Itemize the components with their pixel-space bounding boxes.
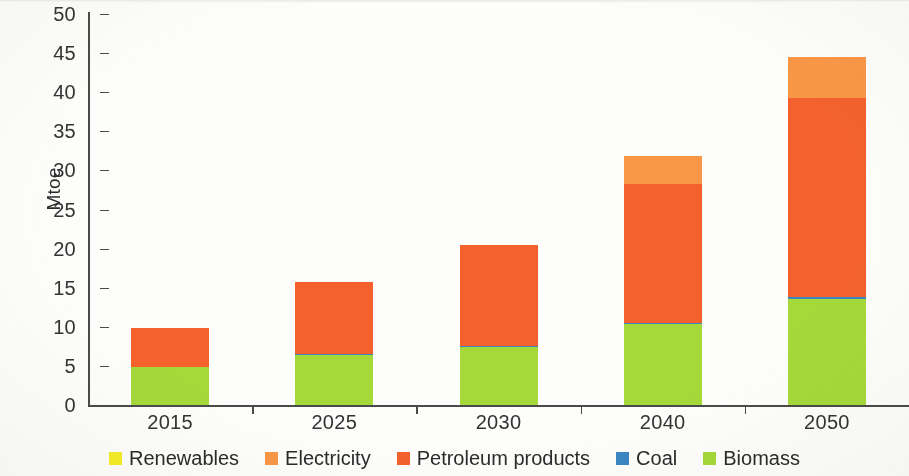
y-tick-label: 50	[24, 3, 76, 26]
y-tick-mark	[100, 14, 109, 15]
y-tick-mark	[100, 53, 109, 54]
x-tick-label: 2025	[311, 411, 357, 434]
bar-segment-coal	[624, 323, 702, 325]
legend-label: Electricity	[285, 447, 371, 470]
bar-2050	[788, 57, 866, 405]
legend-label: Petroleum products	[417, 447, 590, 470]
x-tick-mark	[745, 405, 747, 414]
bar-2030	[460, 245, 538, 405]
y-tick-label: 20	[24, 237, 76, 260]
bar-segment-biomass	[295, 355, 373, 405]
legend-item-electricity[interactable]: Electricity	[265, 447, 371, 470]
legend-swatch-icon	[397, 452, 410, 465]
y-tick-mark	[100, 249, 109, 250]
y-tick-mark	[100, 327, 109, 328]
x-tick-mark	[416, 405, 418, 414]
x-axis-line	[88, 405, 909, 407]
bar-segment-biomass	[788, 299, 866, 405]
bar-segment-electricity	[624, 156, 702, 183]
x-tick-label: 2030	[476, 411, 522, 434]
x-tick-label: 2050	[804, 411, 850, 434]
legend-item-biomass[interactable]: Biomass	[703, 447, 800, 470]
y-tick-mark	[100, 366, 109, 367]
bar-segment-petroleum-products	[788, 98, 866, 297]
x-tick-mark	[581, 405, 583, 414]
legend-label: Renewables	[129, 447, 239, 470]
y-axis-ticks: 05101520253035404550	[18, 0, 76, 476]
y-tick-mark	[100, 92, 109, 93]
y-tick-label: 25	[24, 198, 76, 221]
y-tick-mark	[100, 131, 109, 132]
bar-segment-petroleum-products	[624, 184, 702, 323]
y-tick-mark	[100, 170, 109, 171]
bar-segment-biomass	[131, 367, 209, 405]
bar-segment-petroleum-products	[460, 245, 538, 345]
legend-label: Coal	[636, 447, 677, 470]
legend-item-coal[interactable]: Coal	[616, 447, 677, 470]
chart-legend: RenewablesElectricityPetroleum productsC…	[0, 447, 909, 470]
bar-segment-coal	[788, 297, 866, 299]
bar-segment-petroleum-products	[131, 328, 209, 368]
bar-segment-biomass	[624, 324, 702, 405]
y-tick-mark	[100, 288, 109, 289]
bar-segment-electricity	[788, 57, 866, 98]
y-axis-line	[88, 12, 90, 406]
y-tick-label: 35	[24, 120, 76, 143]
scan-edge	[0, 0, 909, 3]
bar-segment-biomass	[460, 346, 538, 405]
bar-segment-coal	[295, 354, 373, 355]
y-tick-label: 30	[24, 159, 76, 182]
legend-swatch-icon	[703, 452, 716, 465]
x-tick-label: 2015	[147, 411, 193, 434]
bar-segment-coal	[460, 346, 538, 347]
legend-swatch-icon	[109, 452, 122, 465]
y-tick-label: 40	[24, 81, 76, 104]
bar-2015	[131, 328, 209, 405]
bar-2040	[624, 156, 702, 405]
legend-swatch-icon	[616, 452, 629, 465]
x-tick-label: 2040	[640, 411, 686, 434]
bar-2025	[295, 282, 373, 405]
y-tick-label: 5	[24, 354, 76, 377]
legend-swatch-icon	[265, 452, 278, 465]
y-tick-label: 45	[24, 42, 76, 65]
y-tick-mark	[100, 210, 109, 211]
legend-label: Biomass	[723, 447, 800, 470]
legend-item-petroleum-products[interactable]: Petroleum products	[397, 447, 590, 470]
stacked-bar-chart: Mtoe 05101520253035404550 20152025203020…	[0, 0, 909, 476]
y-tick-label: 15	[24, 276, 76, 299]
legend-item-renewables[interactable]: Renewables	[109, 447, 239, 470]
bar-segment-petroleum-products	[295, 282, 373, 354]
x-tick-mark	[252, 405, 254, 414]
y-tick-label: 0	[24, 394, 76, 417]
y-tick-label: 10	[24, 315, 76, 338]
